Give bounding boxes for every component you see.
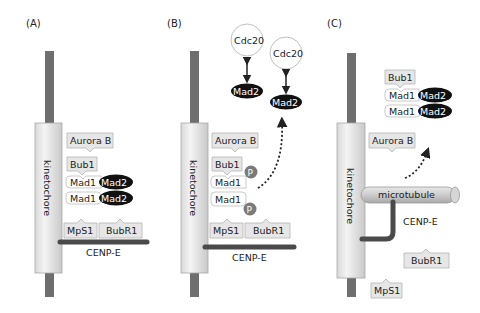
- aurora-b-label: Aurora B: [70, 135, 111, 146]
- bub1-protein: Bub1: [212, 157, 242, 175]
- mad1-mad2-complex-bottom: Mad1 Mad2: [385, 104, 452, 119]
- cdc20-label: Cdc20: [273, 48, 303, 59]
- mad1-label: Mad1: [389, 106, 415, 117]
- bubr1-protein: BubR1: [99, 219, 142, 238]
- cdc20-mad2-right: Cdc20 Mad2: [270, 37, 303, 110]
- aurora-b-label: Aurora B: [372, 135, 413, 146]
- mad2-release-arrow: [258, 122, 282, 188]
- bub1-protein: Bub1: [67, 157, 97, 175]
- panel-b-label: (B): [167, 18, 182, 29]
- aurora-b-protein: Aurora B: [67, 133, 113, 152]
- kinetochore-label: kinetochore: [42, 160, 53, 216]
- mps1-label: MpS1: [374, 285, 400, 296]
- cenp-e-label: CENP-E: [232, 252, 267, 263]
- panel-b: (B) kinetochore Aurora B Bub1 Mad1 P Mad…: [167, 18, 303, 297]
- panel-a: (A) kinetochore Aurora B Bub1 Mad1 Mad2 …: [26, 18, 147, 297]
- mad2-label: Mad2: [420, 90, 446, 101]
- cdc20-mad2-left: Cdc20 Mad2: [231, 24, 264, 99]
- phosphorylated-mad1-bottom: Mad1 P: [211, 192, 257, 216]
- mad2-label: Mad2: [272, 97, 298, 108]
- mad1-label: Mad1: [215, 194, 241, 205]
- mad1-label: Mad1: [215, 177, 241, 188]
- phosphate-label: P: [248, 168, 254, 178]
- microtubule: microtubule: [361, 187, 460, 203]
- bub1-protein: Bub1: [385, 70, 415, 88]
- cenp-e-label: CENP-E: [403, 216, 438, 227]
- bubr1-protein: BubR1: [404, 249, 449, 268]
- microtubule-end: [451, 187, 460, 203]
- mad1-label: Mad1: [70, 177, 96, 188]
- diagram-canvas: (A) kinetochore Aurora B Bub1 Mad1 Mad2 …: [0, 0, 480, 313]
- aurora-b-protein: Aurora B: [369, 133, 415, 152]
- bub1-label: Bub1: [388, 72, 413, 83]
- mps1-protein: MpS1: [64, 219, 97, 238]
- bubr1-protein: BubR1: [245, 219, 290, 238]
- panel-c: (C) kinetochore Bub1 Mad1 Mad2 Mad1 Mad2…: [327, 18, 460, 298]
- phosphate-label: P: [247, 205, 253, 215]
- mad1-mad2-complex-top: Mad1 Mad2: [385, 88, 452, 103]
- cdc20-label: Cdc20: [234, 35, 264, 46]
- mad1-label: Mad1: [70, 193, 96, 204]
- microtubule-label: microtubule: [378, 189, 435, 200]
- bub1-label: Bub1: [215, 159, 240, 170]
- mps1-label: MpS1: [67, 225, 93, 236]
- mad1-label: Mad1: [389, 90, 415, 101]
- bubr1-label: BubR1: [411, 255, 442, 266]
- cenp-e-label: CENP-E: [86, 247, 121, 258]
- mps1-protein: MpS1: [371, 279, 402, 298]
- bubr1-label: BubR1: [253, 225, 284, 236]
- panel-a-label: (A): [26, 18, 41, 29]
- mad2-label: Mad2: [420, 106, 446, 117]
- kinetochore-checkpoint-diagram: (A) kinetochore Aurora B Bub1 Mad1 Mad2 …: [0, 0, 480, 313]
- kinetochore-label: kinetochore: [345, 168, 356, 224]
- aurora-b-protein: Aurora B: [212, 133, 258, 152]
- panel-c-label: (C): [327, 18, 342, 29]
- mad1-mad2-complex-top: Mad1 Mad2: [66, 175, 133, 190]
- cenp-e-motor: [362, 202, 393, 239]
- mad2-label: Mad2: [101, 193, 127, 204]
- kinetochore-label: kinetochore: [188, 160, 199, 216]
- mps1-protein: MpS1: [210, 219, 243, 238]
- mad2-label: Mad2: [233, 86, 259, 97]
- mad1-mad2-complex-bottom: Mad1 Mad2: [66, 191, 133, 206]
- mps1-label: MpS1: [213, 225, 239, 236]
- bub1-label: Bub1: [70, 159, 95, 170]
- bubr1-label: BubR1: [106, 225, 137, 236]
- aurora-b-label: Aurora B: [215, 135, 256, 146]
- mad2-label: Mad2: [101, 177, 127, 188]
- release-arrow: [405, 152, 427, 178]
